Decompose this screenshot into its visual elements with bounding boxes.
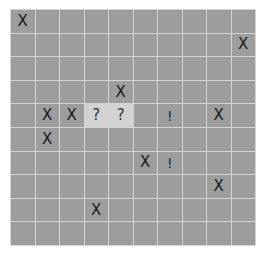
grid-cell-r8-c0[interactable] xyxy=(11,199,35,222)
grid-cell-r7-c0[interactable] xyxy=(11,175,35,198)
grid-cell-r5-c7[interactable] xyxy=(183,128,207,151)
grid-cell-r8-c7[interactable] xyxy=(183,199,207,222)
grid-cell-r4-c2[interactable]: X xyxy=(60,104,84,127)
grid-cell-r8-c1[interactable] xyxy=(36,199,60,222)
grid-cell-r1-c3[interactable] xyxy=(85,34,109,57)
grid-cell-r0-c3[interactable] xyxy=(85,10,109,33)
grid-cell-r6-c2[interactable] xyxy=(60,152,84,175)
grid-cell-r2-c1[interactable] xyxy=(36,57,60,80)
grid-cell-r7-c4[interactable] xyxy=(109,175,133,198)
grid-cell-r8-c4[interactable] xyxy=(109,199,133,222)
grid-cell-r2-c2[interactable] xyxy=(60,57,84,80)
grid-cell-r3-c7[interactable] xyxy=(183,81,207,104)
grid-cell-r5-c2[interactable] xyxy=(60,128,84,151)
grid-cell-r6-c1[interactable] xyxy=(36,152,60,175)
grid-cell-r3-c0[interactable] xyxy=(11,81,35,104)
grid-cell-r0-c5[interactable] xyxy=(134,10,158,33)
grid-cell-r4-c4[interactable]: ? xyxy=(109,104,133,127)
grid-cell-r9-c7[interactable] xyxy=(183,222,207,245)
grid-cell-r6-c7[interactable] xyxy=(183,152,207,175)
grid-cell-r9-c3[interactable] xyxy=(85,222,109,245)
grid-cell-r4-c7[interactable] xyxy=(183,104,207,127)
grid-cell-r4-c5[interactable] xyxy=(134,104,158,127)
grid-cell-r2-c4[interactable] xyxy=(109,57,133,80)
grid-cell-r4-c3[interactable]: ? xyxy=(85,104,109,127)
grid-cell-r7-c2[interactable] xyxy=(60,175,84,198)
grid-cell-r0-c7[interactable] xyxy=(183,10,207,33)
grid-cell-r1-c5[interactable] xyxy=(134,34,158,57)
grid-cell-r6-c5[interactable]: X xyxy=(134,152,158,175)
grid-cell-r8-c3[interactable]: X xyxy=(85,199,109,222)
grid-cell-r8-c8[interactable] xyxy=(207,199,231,222)
grid-cell-r3-c4[interactable]: X xyxy=(109,81,133,104)
grid-cell-r4-c0[interactable] xyxy=(11,104,35,127)
grid-cell-r3-c3[interactable] xyxy=(85,81,109,104)
grid-cell-r7-c9[interactable] xyxy=(232,175,256,198)
grid-cell-r9-c9[interactable] xyxy=(232,222,256,245)
grid-cell-r4-c8[interactable]: X xyxy=(207,104,231,127)
grid-cell-r7-c7[interactable] xyxy=(183,175,207,198)
grid-cell-r9-c2[interactable] xyxy=(60,222,84,245)
grid-cell-r2-c0[interactable] xyxy=(11,57,35,80)
grid-cell-r7-c8[interactable]: X xyxy=(207,175,231,198)
grid-cell-r2-c5[interactable] xyxy=(134,57,158,80)
grid-cell-r7-c3[interactable] xyxy=(85,175,109,198)
grid-cell-r5-c8[interactable] xyxy=(207,128,231,151)
grid-cell-r3-c9[interactable] xyxy=(232,81,256,104)
grid-cell-r3-c6[interactable] xyxy=(158,81,182,104)
grid-cell-r5-c0[interactable] xyxy=(11,128,35,151)
grid-cell-r9-c6[interactable] xyxy=(158,222,182,245)
grid-cell-r0-c4[interactable] xyxy=(109,10,133,33)
grid-cell-r2-c9[interactable] xyxy=(232,57,256,80)
grid-cell-r0-c1[interactable] xyxy=(36,10,60,33)
grid-cell-r4-c1[interactable]: X xyxy=(36,104,60,127)
grid-cell-r4-c9[interactable] xyxy=(232,104,256,127)
grid-cell-r1-c7[interactable] xyxy=(183,34,207,57)
grid-cell-r9-c5[interactable] xyxy=(134,222,158,245)
grid-cell-r3-c5[interactable] xyxy=(134,81,158,104)
grid-cell-r1-c1[interactable] xyxy=(36,34,60,57)
grid-cell-r2-c7[interactable] xyxy=(183,57,207,80)
grid-cell-r8-c2[interactable] xyxy=(60,199,84,222)
grid-cell-r1-c0[interactable] xyxy=(11,34,35,57)
grid-cell-r5-c5[interactable] xyxy=(134,128,158,151)
grid-cell-r6-c3[interactable] xyxy=(85,152,109,175)
grid-cell-r2-c6[interactable] xyxy=(158,57,182,80)
grid-cell-r9-c0[interactable] xyxy=(11,222,35,245)
grid-cell-r5-c6[interactable] xyxy=(158,128,182,151)
grid-cell-r9-c1[interactable] xyxy=(36,222,60,245)
grid-cell-r8-c5[interactable] xyxy=(134,199,158,222)
grid-cell-r6-c0[interactable] xyxy=(11,152,35,175)
grid-cell-r8-c6[interactable] xyxy=(158,199,182,222)
grid-cell-r1-c6[interactable] xyxy=(158,34,182,57)
grid-cell-r2-c3[interactable] xyxy=(85,57,109,80)
grid-cell-r0-c8[interactable] xyxy=(207,10,231,33)
grid-cell-r0-c6[interactable] xyxy=(158,10,182,33)
grid-cell-r5-c9[interactable] xyxy=(232,128,256,151)
grid-cell-r1-c4[interactable] xyxy=(109,34,133,57)
grid-cell-r0-c2[interactable] xyxy=(60,10,84,33)
grid-cell-r6-c9[interactable] xyxy=(232,152,256,175)
grid-cell-r7-c5[interactable] xyxy=(134,175,158,198)
grid-cell-r1-c8[interactable] xyxy=(207,34,231,57)
grid-cell-r3-c8[interactable] xyxy=(207,81,231,104)
grid-cell-r1-c9[interactable]: X xyxy=(232,34,256,57)
grid-cell-r5-c3[interactable] xyxy=(85,128,109,151)
grid-cell-r9-c4[interactable] xyxy=(109,222,133,245)
grid-cell-r9-c8[interactable] xyxy=(207,222,231,245)
grid-cell-r7-c1[interactable] xyxy=(36,175,60,198)
grid-cell-r3-c1[interactable] xyxy=(36,81,60,104)
grid-cell-r1-c2[interactable] xyxy=(60,34,84,57)
grid-cell-r5-c1[interactable]: X xyxy=(36,128,60,151)
grid-cell-r3-c2[interactable] xyxy=(60,81,84,104)
grid-cell-r4-c6[interactable]: ! xyxy=(158,104,182,127)
grid-cell-r6-c8[interactable] xyxy=(207,152,231,175)
grid-cell-r6-c6[interactable]: ! xyxy=(158,152,182,175)
grid-cell-r0-c0[interactable]: X xyxy=(11,10,35,33)
grid-cell-r0-c9[interactable] xyxy=(232,10,256,33)
grid-cell-r8-c9[interactable] xyxy=(232,199,256,222)
grid-cell-r7-c6[interactable] xyxy=(158,175,182,198)
grid-cell-r6-c4[interactable] xyxy=(109,152,133,175)
grid-cell-r2-c8[interactable] xyxy=(207,57,231,80)
grid-cell-r5-c4[interactable] xyxy=(109,128,133,151)
